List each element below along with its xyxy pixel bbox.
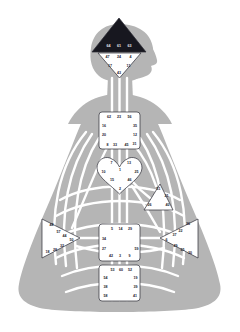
gate-number-30[interactable]: 30 — [188, 251, 192, 255]
gate-number-3[interactable]: 3 — [119, 254, 121, 258]
gate-number-13[interactable]: 13 — [127, 161, 131, 165]
gate-number-1[interactable]: 1 — [119, 168, 121, 172]
gate-number-6[interactable]: 6 — [166, 238, 168, 242]
gate-number-24[interactable]: 24 — [117, 55, 121, 59]
gate-number-39[interactable]: 39 — [134, 285, 138, 289]
gate-number-9[interactable]: 9 — [129, 254, 131, 258]
gate-number-55[interactable]: 55 — [181, 248, 185, 252]
gate-number-33[interactable]: 33 — [113, 143, 117, 147]
gate-number-52[interactable]: 52 — [128, 268, 132, 272]
gate-number-28[interactable]: 28 — [53, 248, 57, 252]
gate-number-11[interactable]: 11 — [127, 64, 131, 68]
gate-number-17[interactable]: 17 — [108, 64, 112, 68]
gate-number-36[interactable]: 36 — [186, 222, 190, 226]
gate-number-38[interactable]: 38 — [104, 285, 108, 289]
gate-number-18[interactable]: 18 — [46, 250, 50, 254]
gate-number-45[interactable]: 45 — [125, 143, 129, 147]
gate-number-7[interactable]: 7 — [111, 161, 113, 165]
gate-number-8[interactable]: 8 — [107, 143, 109, 147]
gate-number-26[interactable]: 26 — [148, 203, 152, 207]
gate-number-12[interactable]: 12 — [133, 133, 137, 137]
gate-number-40[interactable]: 40 — [166, 203, 170, 207]
gate-number-4[interactable]: 4 — [130, 55, 132, 59]
gate-number-19[interactable]: 19 — [134, 276, 138, 280]
gate-number-22[interactable]: 22 — [179, 229, 183, 233]
gate-number-2[interactable]: 2 — [119, 187, 121, 191]
gate-number-62[interactable]: 62 — [107, 115, 111, 119]
gate-number-43[interactable]: 43 — [117, 71, 121, 75]
gate-number-61[interactable]: 61 — [117, 44, 121, 48]
gate-number-47[interactable]: 47 — [106, 55, 110, 59]
gate-number-21[interactable]: 21 — [165, 194, 169, 198]
gate-number-34[interactable]: 34 — [102, 237, 106, 241]
gate-number-20[interactable]: 20 — [102, 133, 106, 137]
gate-number-51[interactable]: 51 — [157, 187, 161, 191]
gate-number-56[interactable]: 56 — [128, 115, 132, 119]
gate-number-58[interactable]: 58 — [104, 294, 108, 298]
gate-number-53[interactable]: 53 — [111, 268, 115, 272]
gate-number-54[interactable]: 54 — [104, 276, 108, 280]
gate-number-48[interactable]: 48 — [50, 223, 54, 227]
gate-number-29[interactable]: 29 — [128, 227, 132, 231]
gate-number-41[interactable]: 41 — [133, 294, 137, 298]
gate-number-32[interactable]: 32 — [60, 244, 64, 248]
gate-number-10[interactable]: 10 — [102, 170, 106, 174]
gate-number-15[interactable]: 15 — [110, 178, 114, 182]
gate-number-14[interactable]: 14 — [119, 227, 123, 231]
gate-number-63[interactable]: 63 — [128, 44, 132, 48]
gate-number-35[interactable]: 35 — [133, 124, 137, 128]
gate-number-5[interactable]: 5 — [111, 227, 113, 231]
gate-number-37[interactable]: 37 — [173, 233, 177, 237]
bodygraph-svg: 6461634724417114362235616352012318334571… — [0, 0, 240, 332]
gate-number-31[interactable]: 31 — [133, 142, 137, 146]
gate-number-44[interactable]: 44 — [63, 234, 67, 238]
gate-number-16[interactable]: 16 — [102, 124, 106, 128]
gate-number-46[interactable]: 46 — [128, 178, 132, 182]
gate-number-59[interactable]: 59 — [135, 247, 139, 251]
gate-number-25[interactable]: 25 — [135, 170, 139, 174]
gate-number-49[interactable]: 49 — [174, 244, 178, 248]
gate-number-27[interactable]: 27 — [102, 247, 106, 251]
gate-number-57[interactable]: 57 — [57, 230, 61, 234]
gate-number-23[interactable]: 23 — [117, 115, 121, 119]
gate-number-50[interactable]: 50 — [70, 238, 74, 242]
gate-number-42[interactable]: 42 — [109, 254, 113, 258]
bodygraph-canvas: 6461634724417114362235616352012318334571… — [0, 0, 240, 332]
gate-number-64[interactable]: 64 — [107, 44, 111, 48]
gate-number-60[interactable]: 60 — [119, 268, 123, 272]
